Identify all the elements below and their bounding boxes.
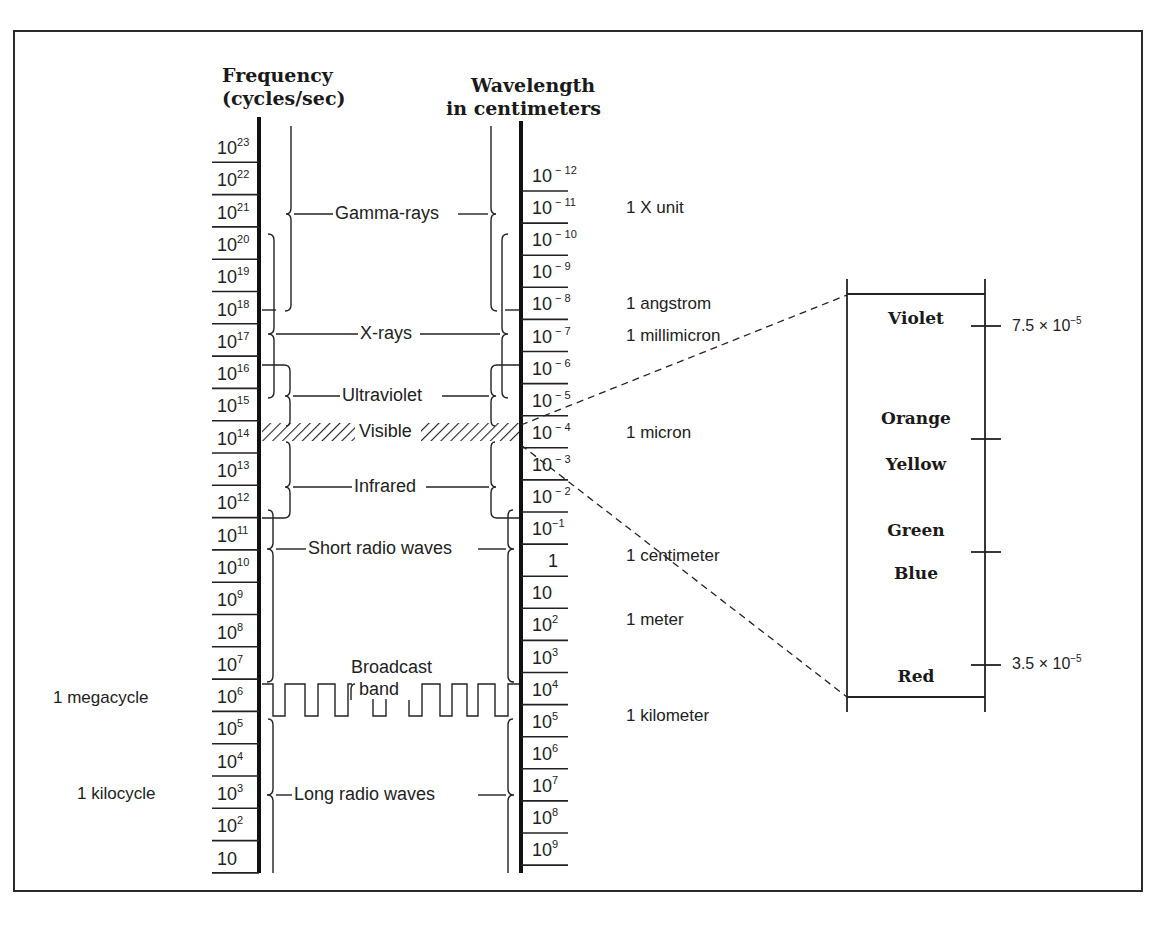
wavelength-tick-label: 10 − 9 <box>532 260 571 283</box>
frequency-tick-label: 104 <box>217 750 243 773</box>
frequency-tick-label: 1022 <box>217 168 249 191</box>
wavelength-tick-label: 104 <box>532 678 558 701</box>
frequency-tick-label: 1023 <box>217 136 249 159</box>
frequency-tick-label: 107 <box>217 653 243 676</box>
wavelength-tick-label: 109 <box>532 838 558 861</box>
color-yellow: Yellow <box>846 454 986 474</box>
color-blue: Blue <box>846 563 986 583</box>
wavelength-tick-label: 103 <box>532 646 558 669</box>
band-label-xray: X-rays <box>358 323 414 344</box>
color-red: Red <box>846 666 986 686</box>
unit-x-unit: 1 X unit <box>626 198 684 218</box>
red-wavelength-value: 3.5 × 10−5 <box>1012 653 1082 673</box>
frequency-tick-label: 109 <box>217 588 243 611</box>
wavelength-tick-label: 10 − 12 <box>532 164 577 187</box>
frequency-tick-label: 108 <box>217 621 243 644</box>
wavelength-tick-label: 10 − 7 <box>532 325 571 348</box>
violet-wavelength-value: 7.5 × 10−5 <box>1012 315 1082 335</box>
wavelength-tick-label: 106 <box>532 742 558 765</box>
frequency-tick-label: 1012 <box>217 491 249 514</box>
unit-centimeter: 1 centimeter <box>626 546 720 566</box>
band-label-ultraviolet: Ultraviolet <box>340 385 424 406</box>
wavelength-tick-label: 102 <box>532 613 558 636</box>
wavelength-tick-label: 107 <box>532 774 558 797</box>
color-orange: Orange <box>846 408 986 428</box>
band-label-broadcast: Broadcast <box>349 657 434 678</box>
frequency-tick-label: 1020 <box>217 233 249 256</box>
wavelength-tick-label: 10−1 <box>532 517 565 540</box>
wavelength-tick-label: 10 <box>532 581 552 604</box>
frequency-tick-label: 1010 <box>217 556 249 579</box>
band-label-long-radio: Long radio waves <box>292 784 437 805</box>
unit-meter: 1 meter <box>626 610 684 630</box>
frequency-tick-label: 1015 <box>217 394 249 417</box>
frequency-tick-label: 1013 <box>217 459 249 482</box>
unit-kilometer: 1 kilometer <box>626 706 709 726</box>
frequency-tick-label: 1018 <box>217 298 249 321</box>
frequency-tick-label: 1011 <box>217 524 248 547</box>
frequency-tick-label: 103 <box>217 782 243 805</box>
band-label-gamma: Gamma-rays <box>333 203 441 224</box>
frequency-tick-label: 10 <box>217 847 237 870</box>
band-label-band: band <box>357 679 401 700</box>
band-label-infrared: Infrared <box>352 476 418 497</box>
wavelength-tick-label: 1 <box>548 549 558 572</box>
unit-megacycle: 1 megacycle <box>53 688 148 708</box>
wavelength-tick-label: 10 − 2 <box>532 485 571 508</box>
frequency-tick-label: 102 <box>217 814 243 837</box>
unit-angstrom: 1 angstrom <box>626 294 711 314</box>
wavelength-tick-label: 10 − 6 <box>532 357 571 380</box>
unit-millimicron: 1 millimicron <box>626 326 720 346</box>
wavelength-tick-label: 105 <box>532 710 558 733</box>
frequency-tick-label: 106 <box>217 685 243 708</box>
frequency-tick-label: 1019 <box>217 265 249 288</box>
frequency-tick-label: 1014 <box>217 427 249 450</box>
wavelength-tick-label: 10 − 8 <box>532 292 571 315</box>
wavelength-tick-label: 10 − 10 <box>532 228 577 251</box>
wavelength-tick-label: 10 − 11 <box>532 196 576 219</box>
frequency-tick-label: 1017 <box>217 330 249 353</box>
frequency-tick-label: 1016 <box>217 362 249 385</box>
wavelength-tick-label: 108 <box>532 806 558 829</box>
unit-micron: 1 micron <box>626 423 691 443</box>
frequency-tick-label: 105 <box>217 717 243 740</box>
unit-kilocycle: 1 kilocycle <box>77 784 155 804</box>
color-violet: Violet <box>846 308 986 328</box>
color-green: Green <box>846 520 986 540</box>
wavelength-tick-label: 10 − 4 <box>532 421 571 444</box>
band-label-short-radio: Short radio waves <box>306 538 454 559</box>
wavelength-tick-label: 10 − 3 <box>532 453 571 476</box>
spectrum-diagram-lines <box>0 0 1163 937</box>
frequency-tick-label: 1021 <box>217 201 249 224</box>
wavelength-tick-label: 10 − 5 <box>532 389 571 412</box>
band-label-visible: Visible <box>357 421 414 442</box>
